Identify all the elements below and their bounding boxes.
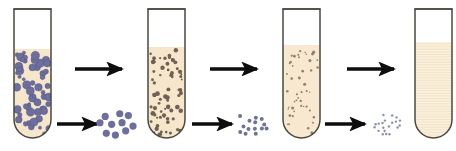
particle [312, 122, 314, 124]
particle [298, 77, 301, 80]
particle [151, 78, 154, 81]
particle [167, 69, 170, 72]
particle [173, 60, 177, 64]
particle [177, 89, 180, 92]
particle [150, 120, 153, 123]
pellet-1 [96, 110, 136, 138]
pellet-3 [373, 114, 401, 136]
particle [308, 59, 311, 62]
particle [168, 54, 172, 58]
particle [292, 65, 294, 67]
pellet-particle [377, 130, 379, 132]
particle [166, 117, 170, 121]
particle [179, 108, 183, 112]
pellet-particle [116, 110, 123, 117]
particle [32, 94, 36, 98]
pellet-particle [108, 121, 115, 128]
particle [306, 54, 308, 56]
particle [153, 106, 157, 110]
particle [160, 66, 164, 70]
pellet-particle [382, 127, 384, 129]
particle [23, 122, 28, 127]
pellet-particle [265, 126, 269, 130]
particle [316, 59, 318, 61]
particle [306, 90, 308, 92]
particle [174, 48, 178, 52]
particle [176, 128, 179, 131]
particle [45, 83, 50, 88]
particle [288, 108, 290, 110]
particle [153, 59, 155, 61]
tube-3 [282, 9, 320, 138]
particle [156, 124, 160, 128]
pellet-particle [244, 132, 248, 136]
particle [159, 74, 161, 76]
pellet-particle [381, 122, 383, 124]
particle [163, 116, 165, 118]
particle [35, 84, 43, 92]
particle [312, 51, 315, 54]
pellet-particle [112, 131, 119, 138]
particle [165, 131, 168, 134]
particle [295, 99, 297, 101]
particle [178, 70, 182, 74]
particle [303, 83, 306, 86]
particle [286, 73, 288, 75]
particle [31, 51, 39, 59]
pellet-particle [388, 133, 390, 135]
particle [289, 114, 292, 117]
pellet-particle [382, 114, 384, 116]
particle [166, 62, 170, 66]
pellet-particle [238, 130, 242, 134]
particle [305, 105, 307, 107]
pellet-particle [129, 123, 136, 130]
particle [17, 67, 22, 72]
pellet-particle [254, 132, 258, 136]
particle [22, 78, 25, 81]
particle [160, 131, 163, 134]
particle [30, 118, 38, 126]
pellet-particle [262, 123, 266, 127]
particle [166, 105, 171, 110]
particle [22, 51, 25, 54]
particle [307, 127, 309, 129]
particle [159, 57, 161, 59]
particle [169, 73, 173, 77]
particle [179, 91, 183, 95]
particle [293, 55, 296, 58]
pellet-particle [399, 119, 401, 121]
particle [23, 104, 28, 109]
pellet-particle [385, 133, 387, 135]
particle [316, 66, 318, 68]
pellet-particle [102, 113, 109, 120]
particle [40, 75, 45, 80]
particle [285, 133, 288, 136]
tube-2 [147, 9, 185, 138]
particle [288, 106, 290, 108]
particle [297, 97, 299, 99]
particle [156, 117, 158, 119]
particle [164, 108, 166, 110]
tube-4-liquid [415, 42, 452, 138]
particle [290, 77, 293, 80]
particle [301, 70, 304, 73]
pellet-particle [238, 114, 242, 118]
particle [297, 54, 299, 56]
particle [169, 131, 172, 134]
pellet-particle [383, 130, 385, 132]
particle [299, 50, 301, 52]
particle [310, 69, 312, 71]
particle [158, 102, 161, 105]
particle [298, 56, 300, 58]
particle [293, 111, 295, 113]
particle [169, 109, 173, 113]
pellet-particle [391, 122, 393, 124]
particle [163, 94, 168, 99]
pellet-particle [241, 125, 245, 129]
particle [163, 57, 166, 60]
pellet-particle [374, 123, 376, 125]
particle [38, 126, 41, 129]
particle [20, 57, 25, 62]
particle [166, 120, 170, 124]
pellet-particle [125, 112, 132, 119]
